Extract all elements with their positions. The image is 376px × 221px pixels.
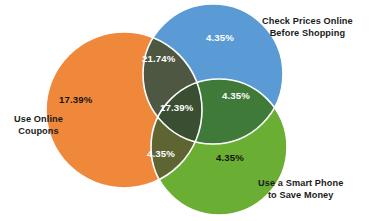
set-label-use-online-coupons: Use Online Coupons — [14, 113, 63, 137]
set-label-line-2: Before Shopping — [262, 27, 353, 39]
value-coupons-and-check: 21.74% — [142, 53, 175, 64]
set-label-line-1: Use Online — [14, 113, 63, 125]
set-label-line-1: Use a Smart Phone — [258, 177, 343, 189]
set-label-use-a-smart-phone: Use a Smart Phone to Save Money — [258, 177, 343, 201]
venn-diagram: Use Online Coupons Check Prices Online B… — [0, 0, 376, 221]
set-label-line-1: Check Prices Online — [262, 15, 353, 27]
value-all-three: 17.39% — [160, 102, 193, 113]
value-check-prices-only: 4.35% — [206, 32, 234, 43]
value-smart-phone-only: 4.35% — [216, 152, 244, 163]
value-coupons-and-phone: 4.35% — [147, 148, 175, 159]
set-label-line-2: Coupons — [14, 125, 63, 137]
value-coupons-only: 17.39% — [59, 94, 92, 105]
value-check-and-phone: 4.35% — [222, 90, 250, 101]
set-label-line-2: to Save Money — [258, 189, 343, 201]
set-label-check-prices-online: Check Prices Online Before Shopping — [262, 15, 353, 39]
